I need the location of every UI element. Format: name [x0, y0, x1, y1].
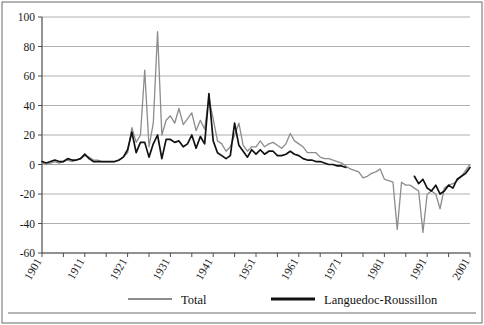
y-axis-tick-label: 100 — [18, 11, 36, 23]
y-axis-tick-label: 40 — [24, 100, 36, 112]
y-axis-tick-label: -40 — [20, 218, 36, 230]
y-axis-tick-label: 60 — [24, 70, 36, 82]
y-axis-tick-label: 80 — [24, 41, 36, 53]
y-axis-tick-label: 20 — [24, 129, 36, 141]
legend-label-1: Languedoc-Roussillon — [324, 293, 438, 307]
legend-label-0: Total — [181, 293, 207, 307]
line-chart: 100806040200-20-40-60 190119111921193119… — [0, 0, 484, 325]
y-axis-tick-label: 0 — [29, 159, 35, 171]
y-axis-tick-label: -20 — [20, 188, 36, 200]
x-axis-ticks — [42, 253, 470, 257]
chart-container: 100806040200-20-40-60 190119111921193119… — [0, 0, 484, 325]
